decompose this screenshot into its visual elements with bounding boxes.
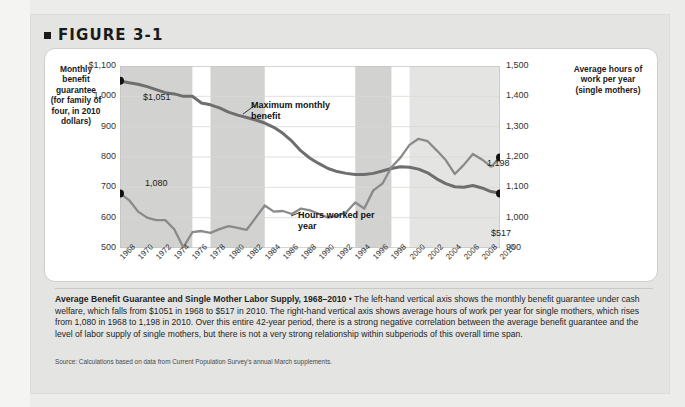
- right-tick-label: 1,300: [506, 121, 529, 131]
- left-tick-label: 900: [62, 121, 116, 131]
- left-tick-label: 800: [62, 151, 116, 161]
- left-tick-label: 700: [62, 181, 116, 191]
- left-tick-label: 500: [62, 242, 116, 252]
- left-tick-label: $1,100: [62, 60, 116, 70]
- figure-number: FIGURE 3-1: [58, 26, 163, 44]
- right-tick-label: 1,100: [506, 181, 529, 191]
- caption-divider: [55, 288, 653, 289]
- figure-page: FIGURE 3-1 Monthly benefit guarantee (fo…: [0, 0, 685, 407]
- right-tick-label: 1,500: [506, 60, 529, 70]
- benefit-start-label: $1,051: [143, 92, 171, 102]
- figure-header: FIGURE 3-1: [44, 26, 163, 44]
- caption-separator: •: [346, 294, 354, 304]
- right-tick-label: 1,400: [506, 90, 529, 100]
- hours-series-annotation: Hours worked per year: [298, 210, 384, 232]
- figure-source: Source: Calculations based on data from …: [55, 357, 653, 366]
- square-bullet-icon: [44, 32, 51, 39]
- right-tick-label: 1,000: [506, 212, 529, 222]
- benefit-end-label: $517: [491, 228, 511, 238]
- figure-caption: Average Benefit Guarantee and Single Mot…: [55, 294, 653, 340]
- hours-end-label: 1,198: [487, 158, 510, 168]
- left-tick-label: 1,000: [62, 90, 116, 100]
- benefit-series-annotation: Maximum monthly benefit: [251, 100, 331, 122]
- page-margin-strip: [0, 0, 30, 407]
- hours-start-label: 1,080: [145, 178, 168, 188]
- caption-title: Average Benefit Guarantee and Single Mot…: [55, 294, 346, 304]
- right-axis-title: Average hours of work per year (single m…: [570, 64, 646, 95]
- left-tick-label: 600: [62, 212, 116, 222]
